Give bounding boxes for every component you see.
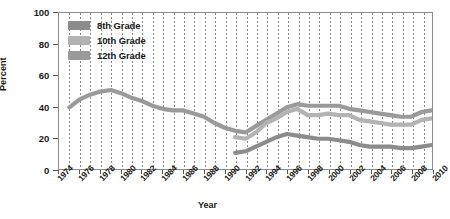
y-tick-label-20: 20 — [23, 133, 49, 144]
legend-item-12th-grade: 12th Grade — [68, 48, 146, 63]
legend-item-8th-grade: 8th Grade — [68, 18, 146, 33]
series-line-10th-grade — [235, 109, 432, 139]
y-tick-label-0: 0 — [23, 165, 49, 176]
x-axis-title-text: Year — [198, 200, 217, 210]
legend-swatch-icon — [68, 36, 90, 45]
legend-swatch-icon — [68, 51, 90, 60]
chart-legend: 8th Grade10th Grade12th Grade — [68, 18, 146, 63]
y-tick-label-60: 60 — [23, 70, 49, 81]
series-line-12th-grade — [69, 90, 432, 132]
legend-label: 12th Grade — [97, 50, 146, 61]
y-tick-label-80: 80 — [23, 38, 49, 49]
series-line-8th-grade — [235, 134, 432, 153]
y-tick-label-40: 40 — [23, 101, 49, 112]
legend-swatch-icon — [68, 21, 90, 30]
y-axis-title: Percent — [0, 57, 8, 91]
legend-item-10th-grade: 10th Grade — [68, 33, 146, 48]
legend-label: 8th Grade — [97, 20, 140, 31]
y-tick-label-100: 100 — [23, 7, 49, 18]
x-axis-title: Year — [0, 200, 439, 210]
legend-label: 10th Grade — [97, 35, 146, 46]
